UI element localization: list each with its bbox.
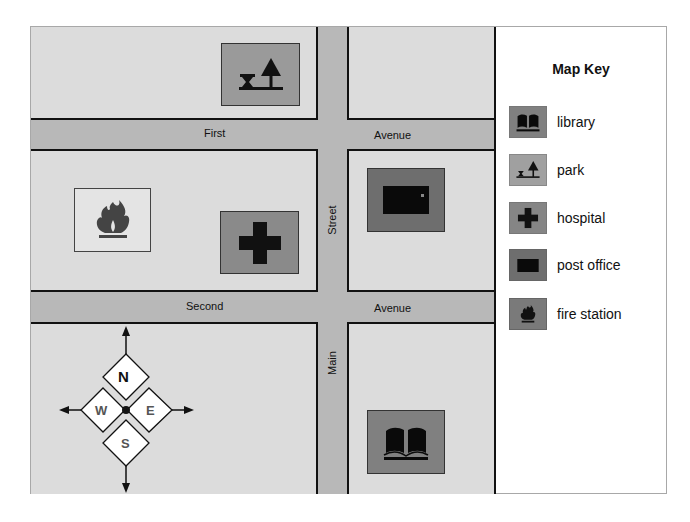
legend-item-post-office: post office: [509, 248, 621, 282]
block-northeast: [347, 27, 495, 120]
hospital-cross-icon: [517, 207, 539, 229]
park-icon: [237, 56, 285, 94]
map-key: Map Key library park: [496, 27, 666, 493]
legend-swatch-library: [509, 106, 547, 138]
legend-label-hospital: hospital: [557, 210, 605, 226]
legend-item-hospital: hospital: [509, 201, 605, 235]
mailbox-icon: [383, 186, 429, 214]
fire-icon: [519, 304, 537, 324]
legend-item-fire-station: fire station: [509, 297, 622, 331]
hospital-cross-icon: [237, 220, 283, 266]
first-avenue-label-first: First: [204, 127, 225, 139]
compass-east-label: E: [146, 403, 155, 418]
main-street-label-street: Street: [326, 202, 338, 238]
park-icon: [515, 160, 541, 180]
map-key-title: Map Key: [496, 61, 666, 77]
fire-station-location[interactable]: [74, 188, 151, 252]
second-avenue-label-avenue: Avenue: [374, 302, 411, 314]
compass-north-label: N: [118, 368, 129, 385]
open-book-icon: [516, 112, 540, 132]
legend-item-library: library: [509, 105, 595, 139]
post-office-location[interactable]: [367, 168, 445, 232]
legend-label-fire-station: fire station: [557, 306, 622, 322]
compass-west-label: W: [95, 403, 107, 418]
legend-swatch-park: [509, 154, 547, 186]
park-location[interactable]: [221, 43, 300, 106]
hospital-location[interactable]: [220, 211, 299, 274]
library-location[interactable]: [367, 410, 445, 474]
mailbox-icon: [517, 259, 539, 272]
compass-rose: N W E S: [55, 322, 200, 497]
fire-icon: [93, 198, 133, 242]
legend-label-post-office: post office: [557, 257, 621, 273]
second-avenue-label-second: Second: [186, 300, 223, 312]
compass-south-label: S: [121, 436, 130, 451]
legend-swatch-post-office: [509, 249, 547, 281]
legend-label-park: park: [557, 162, 584, 178]
open-book-icon: [383, 423, 429, 461]
legend-item-park: park: [509, 153, 584, 187]
legend-swatch-fire-station: [509, 298, 547, 330]
legend-swatch-hospital: [509, 202, 547, 234]
first-avenue-label-avenue: Avenue: [374, 129, 411, 141]
main-street-label-main: Main: [326, 345, 338, 381]
legend-label-library: library: [557, 114, 595, 130]
